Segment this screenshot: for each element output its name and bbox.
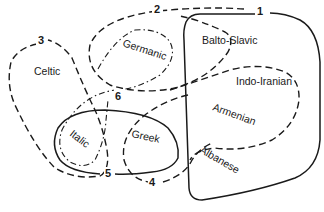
label-germanic: Germanic bbox=[121, 36, 168, 61]
label-italic: Italic bbox=[68, 127, 92, 150]
isogloss-label-4: 4 bbox=[149, 176, 156, 188]
isogloss-label-2: 2 bbox=[154, 3, 160, 15]
label-greek: Greek bbox=[131, 127, 162, 145]
label-indo-iranian: Indo-Iranian bbox=[236, 75, 292, 87]
isogloss-label-1: 1 bbox=[257, 5, 263, 17]
label-armenian: Armenian bbox=[211, 101, 257, 128]
isogloss-label-5: 5 bbox=[105, 167, 111, 179]
isogloss-label-3: 3 bbox=[38, 34, 44, 46]
isogloss-5-line bbox=[54, 110, 178, 174]
isogloss-label-6: 6 bbox=[115, 90, 121, 102]
label-balto-slavic: Balto-Slavic bbox=[202, 34, 257, 46]
label-celtic: Celtic bbox=[34, 65, 60, 77]
isogloss-diagram: Celtic Germanic Balto-Slavic Indo-Irania… bbox=[0, 0, 324, 212]
